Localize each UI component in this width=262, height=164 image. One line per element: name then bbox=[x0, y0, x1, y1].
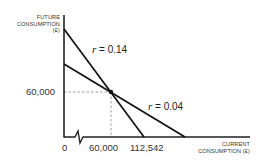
intertemporal-consumption-chart: FUTURE CONSUMPTION (£) CURRENT CONSUMPTI… bbox=[0, 0, 262, 164]
x-axis-title-line-2: CONSUMPTION (£) bbox=[186, 148, 250, 155]
label-r-014-symbol: r bbox=[92, 43, 96, 55]
y-axis-title: FUTURE CONSUMPTION (£) bbox=[4, 14, 60, 34]
y-tick-60000: 60,000 bbox=[26, 86, 55, 97]
x-tick-112542: 112,542 bbox=[130, 142, 164, 153]
label-r-014-value: = 0.14 bbox=[99, 44, 127, 55]
x-axis-title-line-1: CURRENT bbox=[186, 141, 250, 148]
y-axis-title-line-2: CONSUMPTION bbox=[4, 21, 60, 28]
x-tick-60000: 60,000 bbox=[89, 142, 118, 153]
label-r-014: r = 0.14 bbox=[92, 43, 127, 55]
intersection-point bbox=[109, 90, 113, 94]
label-r-004-symbol: r bbox=[148, 100, 152, 112]
label-r-004: r = 0.04 bbox=[148, 100, 183, 112]
x-tick-0: 0 bbox=[62, 142, 67, 153]
y-axis-title-line-1: FUTURE bbox=[4, 14, 60, 21]
y-axis-title-line-3: (£) bbox=[4, 27, 60, 34]
label-r-004-value: = 0.04 bbox=[155, 101, 183, 112]
x-axis-title: CURRENT CONSUMPTION (£) bbox=[186, 141, 250, 154]
